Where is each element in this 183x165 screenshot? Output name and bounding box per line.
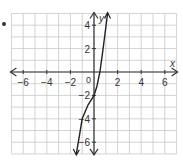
y-axis-label: y	[98, 13, 105, 24]
x-tick-label: 6	[162, 77, 168, 88]
x-tick-label: −2	[65, 77, 77, 88]
y-tick-label: −2	[79, 90, 91, 101]
y-tick-label: −4	[79, 114, 91, 125]
y-tick-label: 2	[84, 44, 90, 55]
y-tick-label: 4	[84, 20, 90, 31]
x-tick-label: 4	[138, 77, 144, 88]
coordinate-plane: −6−4−224642−2−4−6 x y 0	[0, 0, 183, 165]
x-tick-label: −6	[17, 77, 29, 88]
x-tick-label: 2	[115, 77, 121, 88]
x-tick-label: −4	[41, 77, 53, 88]
tick-labels: −6−4−224642−2−4−6	[17, 20, 168, 148]
y-tick-label: −6	[79, 137, 91, 148]
x-axis-label: x	[169, 58, 176, 69]
origin-label: 0	[86, 75, 91, 85]
